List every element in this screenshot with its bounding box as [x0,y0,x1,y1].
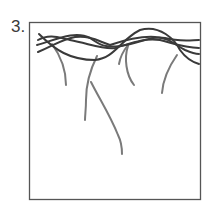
hanging-strand-5 [126,46,134,85]
hanging-strand-6 [162,55,177,93]
strands-diagram [0,0,216,215]
hanging-strands [52,44,177,154]
hanging-strand-3 [91,82,122,154]
